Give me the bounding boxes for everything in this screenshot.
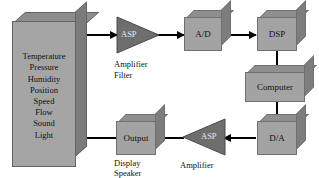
computer-block[interactable]: Computer	[245, 72, 305, 102]
sensor-item-position: Position	[30, 85, 58, 96]
computer-side-face	[304, 55, 314, 97]
sensor-block-side-face	[75, 1, 87, 157]
sensor-item-temperature: Temperature	[23, 51, 66, 62]
asp-input-caption-line2: Filter	[114, 70, 132, 81]
sensor-item-speed: Speed	[34, 96, 55, 107]
computer-label: Computer	[245, 72, 305, 102]
asp-output-amplifier[interactable]: ASP	[182, 118, 226, 156]
asp-output-caption-line1: Amplifier	[180, 160, 214, 171]
sensor-input-block[interactable]: Temperature Pressure Humidity Position S…	[12, 12, 84, 164]
sensor-block-front-face: Temperature Pressure Humidity Position S…	[12, 21, 76, 167]
adc-label: A/D	[184, 17, 222, 51]
sensor-item-sound: Sound	[33, 118, 55, 129]
sensor-item-flow: Flow	[35, 107, 52, 118]
sensor-item-pressure: Pressure	[30, 62, 59, 73]
output-side-face	[155, 104, 165, 150]
dac-block[interactable]: D/A	[257, 121, 297, 155]
adc-block[interactable]: A/D	[184, 17, 222, 51]
dsp-side-face	[296, 0, 306, 46]
output-block[interactable]: Output	[116, 121, 156, 155]
block-diagram-canvas: Temperature Pressure Humidity Position S…	[0, 0, 319, 178]
output-label: Output	[116, 121, 156, 155]
output-caption-line2: Speaker	[114, 168, 141, 178]
arrow-head	[249, 31, 257, 39]
sensor-item-light: Light	[35, 130, 53, 141]
arrow-dac-to-asp-output	[224, 137, 256, 139]
sensor-item-humidity: Humidity	[28, 74, 61, 85]
asp-input-caption-line1: Amplifier	[114, 59, 148, 70]
adc-side-face	[221, 0, 231, 46]
dac-label: D/A	[257, 121, 297, 155]
dac-side-face	[296, 104, 306, 150]
dsp-block[interactable]: DSP	[257, 17, 297, 51]
dsp-label: DSP	[257, 17, 297, 51]
asp-input-amplifier[interactable]: ASP	[116, 16, 160, 54]
